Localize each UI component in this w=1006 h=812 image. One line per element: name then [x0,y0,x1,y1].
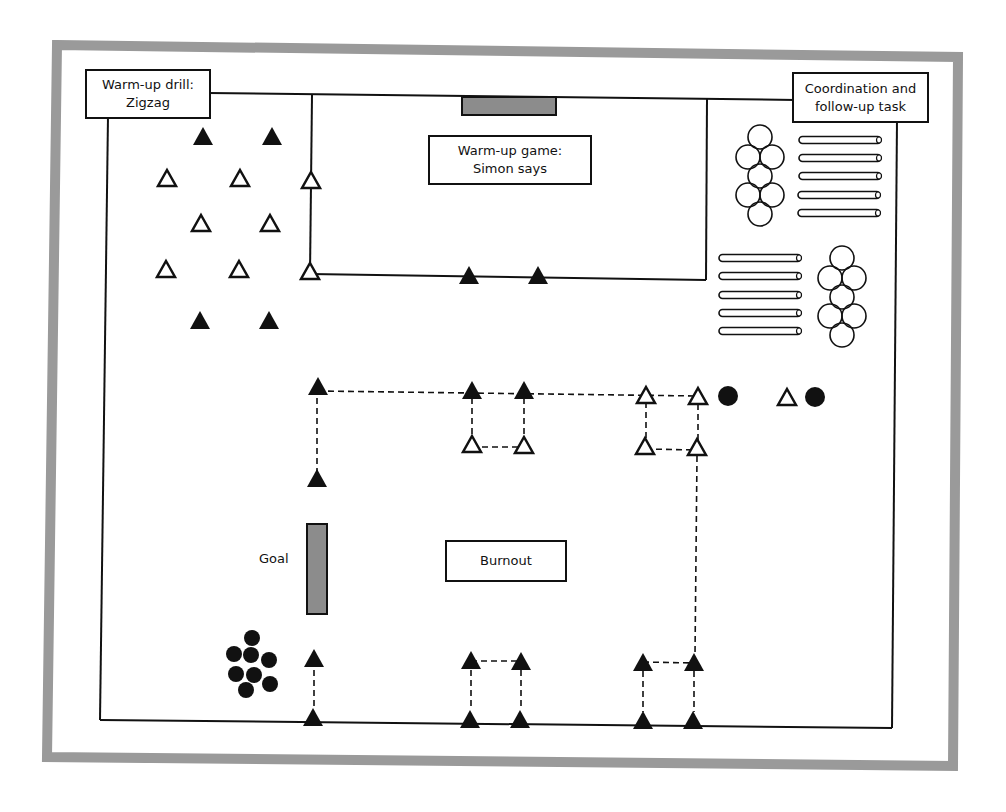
pitch-diagram: Warm-up drill: Zigzag Warm-up game: Simo… [0,0,1006,812]
burnout-label: Burnout [445,540,567,582]
coordination-label: Coordination and follow-up task [792,72,929,123]
top-goal [462,97,556,115]
goal-label: Goal [259,551,289,566]
warmup-drill-label: Warm-up drill: Zigzag [85,69,211,119]
side-goal [307,524,327,614]
warmup-game-label: Warm-up game: Simon says [428,135,592,185]
